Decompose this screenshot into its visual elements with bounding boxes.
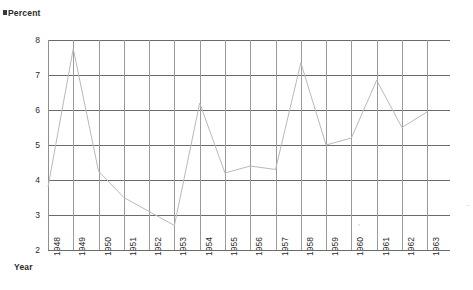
series-line-percent bbox=[48, 49, 427, 226]
line-chart: Percent Year 8765432 1948194919501951195… bbox=[0, 0, 473, 290]
data-series-layer bbox=[48, 40, 450, 250]
y-axis-title: Percent bbox=[8, 8, 41, 18]
y-tick-4: 4 bbox=[18, 175, 40, 185]
plot-area bbox=[48, 40, 450, 250]
scan-artifact-1 bbox=[358, 224, 360, 226]
x-axis-title: Year bbox=[14, 262, 33, 272]
y-tick-2: 2 bbox=[18, 245, 40, 255]
y-tick-6: 6 bbox=[18, 105, 40, 115]
gridline-y-2 bbox=[48, 250, 450, 251]
y-tick-7: 7 bbox=[18, 70, 40, 80]
y-tick-3: 3 bbox=[18, 210, 40, 220]
scan-artifact-2 bbox=[466, 205, 469, 206]
y-tick-8: 8 bbox=[18, 35, 40, 45]
y-tick-5: 5 bbox=[18, 140, 40, 150]
